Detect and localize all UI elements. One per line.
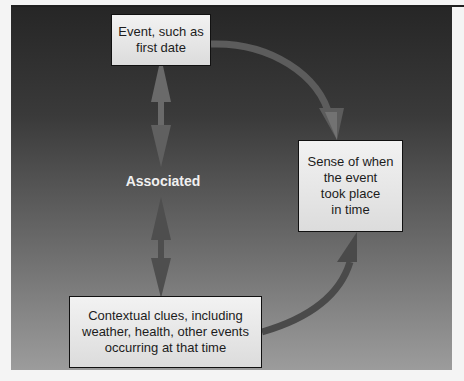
node-contextual-clues: Contextual clues, including weather, hea… <box>69 296 262 368</box>
arrow-context-to-sense-icon <box>262 232 357 332</box>
double-arrow-upper-icon <box>151 57 171 167</box>
node-sense-of-time: Sense of when the event took place in ti… <box>298 140 403 232</box>
node-event: Event, such as first date <box>111 14 211 66</box>
double-arrow-lower-icon <box>151 197 171 298</box>
node-event-text: Event, such as first date <box>118 24 203 56</box>
node-context-text: Contextual clues, including weather, hea… <box>82 308 249 356</box>
arrow-event-to-sense-icon <box>211 44 344 140</box>
association-label: Associated <box>118 173 208 189</box>
node-sense-text: Sense of when the event took place in ti… <box>307 154 393 218</box>
